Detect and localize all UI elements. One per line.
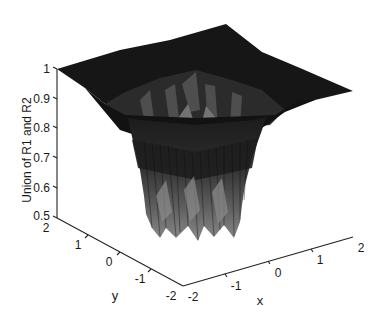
- y-tick-label: -2: [166, 289, 177, 303]
- y-tick-label: 0: [106, 255, 113, 269]
- x-tick-label: 1: [317, 253, 324, 267]
- z-tick-label: 0.6: [33, 181, 50, 195]
- z-ticks: 1 0.9 0.8 0.7 0.6 0.5: [33, 62, 57, 223]
- x-ticks: -2 -1 0 1 2 x: [188, 241, 365, 308]
- z-tick-label: 1: [43, 62, 50, 76]
- y-tick-label: -1: [135, 272, 146, 286]
- z-tick-label: 0.7: [33, 151, 50, 165]
- y-tick-label: 1: [75, 238, 82, 252]
- z-axis-label: Union of R1 and R2: [20, 97, 34, 203]
- z-tick-label: 0.8: [33, 121, 50, 135]
- x-tick-label: -2: [188, 290, 199, 304]
- surface-plot: 1 0.9 0.8 0.7 0.6 0.5 2 1 0 -1 -2 y -2 -…: [0, 0, 384, 328]
- x-tick-label: 0: [275, 266, 282, 280]
- z-tick-label: 0.9: [33, 92, 50, 106]
- x-tick-label: 2: [358, 241, 365, 255]
- x-axis-label: x: [257, 293, 264, 308]
- y-axis-label: y: [112, 288, 119, 303]
- x-tick-label: -1: [231, 279, 242, 293]
- y-tick-label: 2: [43, 221, 50, 235]
- surface: [57, 24, 353, 241]
